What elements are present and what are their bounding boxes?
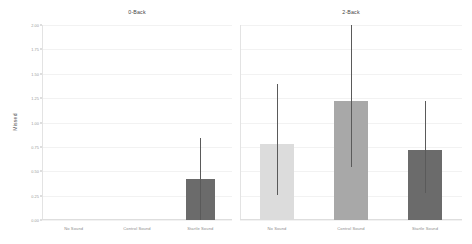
gridline: [42, 220, 232, 221]
gridline: [42, 74, 232, 75]
facet-panel-title: 2-Back: [240, 9, 462, 15]
y-axis-tick-label: 1.50: [31, 71, 39, 76]
y-axis-tick-label: 1.25: [31, 96, 39, 101]
y-axis-title-label: Missed: [12, 113, 18, 130]
gridline: [42, 25, 232, 26]
facet-panel-2-back: 2-BackNo SoundControl SoundStartle Sound: [240, 0, 462, 244]
x-axis-tick-label: Startle Sound: [412, 226, 438, 231]
error-bar: [277, 84, 278, 194]
y-axis-tick-label: 1.00: [31, 120, 39, 125]
x-axis-labels: No SoundControl SoundStartle Sound: [240, 226, 462, 238]
error-bar: [200, 138, 201, 220]
x-axis-tick-label: No Sound: [267, 226, 286, 231]
y-axis-tick-label: 0.50: [31, 169, 39, 174]
gridline: [42, 171, 232, 172]
gridline: [240, 220, 462, 221]
plot-area: [240, 25, 462, 220]
x-axis-tick-label: No Sound: [64, 226, 83, 231]
y-axis-line: [42, 25, 43, 220]
error-bar: [425, 101, 426, 193]
x-axis-tick-label: Control Sound: [337, 226, 364, 231]
y-axis: 0.000.250.500.751.001.251.501.752.00: [22, 0, 42, 244]
facet-panel-title: 0-Back: [42, 9, 232, 15]
gridline: [42, 123, 232, 124]
y-axis-tick-label: 0.00: [31, 218, 39, 223]
facet-panel-0-back: 0-BackNo SoundControl SoundStartle Sound: [42, 0, 232, 244]
gridline: [42, 49, 232, 50]
plot-area: [42, 25, 232, 220]
missed-faceted-bar-chart: Missed 0.000.250.500.751.001.251.501.752…: [0, 0, 472, 244]
gridline: [42, 98, 232, 99]
x-axis-tick-label: Control Sound: [123, 226, 150, 231]
x-axis-tick-label: Startle Sound: [187, 226, 213, 231]
y-axis-tick-label: 0.75: [31, 144, 39, 149]
error-bar: [351, 25, 352, 167]
y-axis-tick-label: 2.00: [31, 23, 39, 28]
y-axis-title: Missed: [8, 0, 22, 244]
y-axis-tick-label: 0.25: [31, 193, 39, 198]
x-axis-labels: No SoundControl SoundStartle Sound: [42, 226, 232, 238]
y-axis-tick-label: 1.75: [31, 47, 39, 52]
gridline: [42, 147, 232, 148]
y-axis-line: [240, 25, 241, 220]
